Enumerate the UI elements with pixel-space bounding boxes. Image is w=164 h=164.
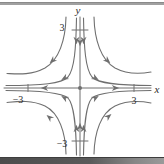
trajectory-lower-right-outer: [94, 101, 151, 154]
lower-left-outer-flow-arrow-icon: [45, 113, 55, 122]
x-tick-label-negative-3: −3: [6, 95, 30, 105]
y-axis-label: y: [72, 5, 84, 15]
x-axis-label: x: [152, 84, 162, 94]
bottom-border-bar: [0, 157, 164, 164]
x-tick-label-positive-3: 3: [128, 96, 140, 106]
lower-right-outer-flow-arrow-icon: [104, 112, 114, 121]
trajectory-upper-right-outer: [94, 17, 151, 73]
y-tick-label-negative-3: −3: [50, 139, 74, 149]
trajectory-lower-right-inner: [84, 91, 152, 156]
trajectory-upper-right-inner: [84, 18, 152, 86]
phase-portrait-figure: y x 3 −3 −3 3: [0, 0, 164, 164]
saddle-phase-portrait-canvas: [0, 0, 164, 164]
origin-equilibrium-dot: [78, 86, 82, 90]
y-tick-label-positive-3: 3: [56, 23, 68, 33]
